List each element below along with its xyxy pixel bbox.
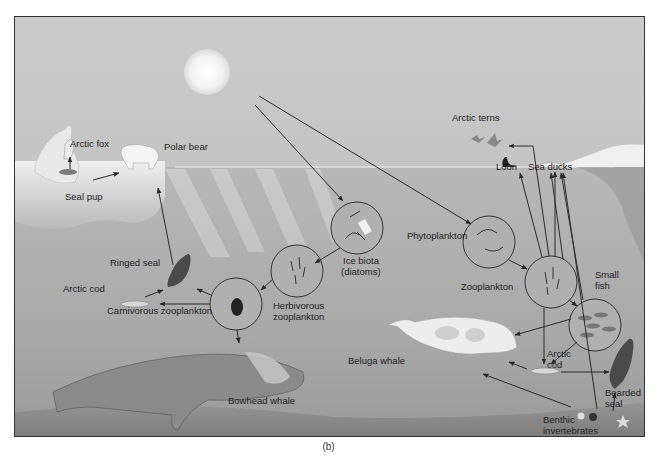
sun-icon — [184, 49, 230, 95]
label-bearded-seal-line2: seal — [605, 398, 622, 409]
ice-biota-circle — [331, 202, 383, 254]
label-beluga-whale: Beluga whale — [348, 355, 405, 366]
label-arctic-fox: Arctic fox — [70, 138, 109, 149]
label-ice-biota-line1: Ice biota — [343, 255, 379, 266]
label-bowhead-whale: Bowhead whale — [228, 395, 295, 406]
label-arctic-cod-right-line1: Arctic — [547, 348, 571, 359]
figure-caption: (b) — [0, 441, 657, 452]
label-bearded-seal-line1: Bearded — [605, 387, 641, 398]
label-arctic-terns: Arctic terns — [452, 112, 500, 123]
label-arctic-cod-right-line2: cod — [547, 359, 562, 370]
label-benthic-line2: invertebrates — [543, 425, 598, 436]
label-ice-biota-line2: (diatoms) — [341, 266, 381, 277]
label-herbivorous-zooplankton-line1: Herbivorous — [273, 300, 324, 311]
label-loon: Loon — [496, 161, 517, 172]
label-phytoplankton: Phytoplankton — [407, 230, 467, 241]
food-web-diagram: Arctic fox Polar bear Seal pup Ringed se… — [14, 16, 645, 437]
label-carnivorous-zooplankton: Carnivorous zooplankton — [107, 305, 212, 316]
label-zooplankton: Zooplankton — [461, 281, 513, 292]
herbivorous-zooplankton-circle — [271, 245, 323, 297]
sky — [15, 17, 645, 167]
label-small-fish-line2: fish — [595, 280, 610, 291]
label-arctic-cod-left: Arctic cod — [63, 283, 105, 294]
label-seal-pup: Seal pup — [65, 191, 103, 202]
seal-pup — [59, 169, 77, 175]
label-small-fish-line1: Small — [595, 269, 619, 280]
label-polar-bear: Polar bear — [164, 141, 208, 152]
scene-artwork — [15, 17, 645, 437]
label-benthic-line1: Benthic — [543, 414, 575, 425]
label-herbivorous-zooplankton-line2: zooplankton — [273, 311, 324, 322]
label-ringed-seal: Ringed seal — [110, 257, 160, 268]
label-sea-ducks: Sea ducks — [528, 161, 572, 172]
